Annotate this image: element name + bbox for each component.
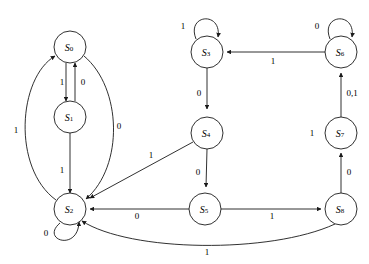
node-s6[interactable]: S6 <box>325 36 357 68</box>
edge-label-s3-self: 1 <box>181 21 186 31</box>
edge-label-s8-s2: 1 <box>205 247 210 257</box>
node-s3[interactable]: S3 <box>191 36 223 68</box>
edge-label-s4-s5: 0 <box>196 167 201 177</box>
edge-s4-s5 <box>206 149 207 187</box>
edge-label-s1-s2: 1 <box>60 165 65 175</box>
node-s4[interactable]: S4 <box>191 117 223 149</box>
state-machine-graph: S0 S1 S2 S3 S4 S5 <box>0 0 369 264</box>
state-diagram-canvas: S0 S1 S2 S3 S4 S5 <box>0 0 369 264</box>
edge-label-s5-s2: 0 <box>135 211 140 221</box>
edge-label-s7-left: 1 <box>310 128 315 138</box>
edge-s4-s2 <box>90 142 193 198</box>
edge-label-s2-s0: 1 <box>14 125 19 135</box>
node-s0[interactable]: S0 <box>54 31 86 63</box>
edge-label-s0-s1: 1 <box>60 77 65 87</box>
edge-label-s5-s8: 1 <box>270 211 275 221</box>
edge-s0-s2 <box>84 56 114 199</box>
edge-label-s0-s2: 0 <box>117 121 122 131</box>
edge-label-s1-s0: 0 <box>81 77 86 87</box>
node-s1[interactable]: S1 <box>54 101 86 133</box>
edge-label-s6-s3: 1 <box>271 56 276 66</box>
node-s2[interactable]: S2 <box>54 193 86 225</box>
node-s7[interactable]: S7 <box>325 117 357 149</box>
edge-label-s3-s4: 0 <box>197 88 202 98</box>
edge-label-s8-s7: 0 <box>347 167 352 177</box>
edge-label-s4-s2: 1 <box>149 150 154 160</box>
edge-label-s6-self: 0 <box>315 21 320 31</box>
edge-label-s7-s6: 0,1 <box>346 88 357 98</box>
node-s8[interactable]: S8 <box>325 193 357 225</box>
edge-s2-s0 <box>25 56 56 200</box>
node-s5[interactable]: S5 <box>189 193 221 225</box>
edge-label-s2-self: 0 <box>44 228 49 238</box>
